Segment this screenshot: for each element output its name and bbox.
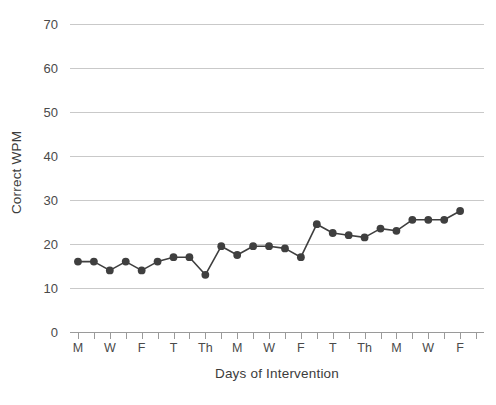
data-point xyxy=(424,216,432,224)
x-axis-tick-label: Th xyxy=(198,341,213,355)
data-point xyxy=(249,242,257,250)
data-point xyxy=(186,253,194,261)
x-axis-tick xyxy=(94,332,95,339)
line-chart: Correct WPM 010203040506070 MWFTThMWFTTh… xyxy=(0,0,496,405)
x-axis-tick xyxy=(333,332,334,339)
x-axis-tick xyxy=(110,332,111,339)
data-point xyxy=(201,271,209,279)
x-axis-tick-label: Th xyxy=(357,341,372,355)
y-axis-tick-label: 20 xyxy=(44,237,58,252)
x-axis-tick-labels: MWFTThMWFTThMWF xyxy=(70,341,484,361)
data-point xyxy=(297,253,305,261)
x-axis-tick-label: M xyxy=(232,341,242,355)
x-axis-tick xyxy=(221,332,222,339)
y-axis-tick-label: 60 xyxy=(44,61,58,76)
data-point xyxy=(74,258,82,266)
data-point xyxy=(377,225,385,233)
data-point xyxy=(408,216,416,224)
x-axis-title: Days of Intervention xyxy=(70,366,484,381)
x-axis-tick-label: F xyxy=(138,341,146,355)
x-axis-tick-label: F xyxy=(297,341,305,355)
data-point xyxy=(154,258,162,266)
x-axis-tick xyxy=(269,332,270,339)
y-axis-title: Correct WPM xyxy=(0,0,34,345)
x-axis-tick xyxy=(174,332,175,339)
x-axis-tick xyxy=(381,332,382,339)
x-axis-tick xyxy=(349,332,350,339)
x-axis-tick-label: F xyxy=(456,341,464,355)
y-axis-title-label: Correct WPM xyxy=(10,131,25,214)
y-axis-tick-labels: 010203040506070 xyxy=(30,0,66,345)
x-axis-tick xyxy=(428,332,429,339)
data-point xyxy=(345,231,353,239)
data-point xyxy=(393,227,401,235)
x-axis-tick xyxy=(253,332,254,339)
data-point xyxy=(138,267,146,275)
x-axis-tick xyxy=(317,332,318,339)
x-axis-tick xyxy=(412,332,413,339)
x-axis-tick xyxy=(189,332,190,339)
x-axis-tick xyxy=(301,332,302,339)
x-axis-tick-label: M xyxy=(73,341,83,355)
data-point xyxy=(329,229,337,237)
x-axis-tick-label: M xyxy=(391,341,401,355)
y-axis-tick-label: 70 xyxy=(44,17,58,32)
x-axis-tick xyxy=(126,332,127,339)
data-point xyxy=(456,207,464,215)
x-axis-tick xyxy=(460,332,461,339)
x-axis-tick-label: W xyxy=(104,341,116,355)
data-point xyxy=(265,242,273,250)
x-axis-tick-label: T xyxy=(329,341,337,355)
x-axis-tick xyxy=(285,332,286,339)
x-axis-tick-label: W xyxy=(422,341,434,355)
x-axis-tick xyxy=(444,332,445,339)
data-point xyxy=(281,245,289,253)
data-point xyxy=(233,251,241,259)
data-point xyxy=(440,216,448,224)
y-axis-tick-label: 30 xyxy=(44,193,58,208)
plot-area xyxy=(70,0,484,345)
x-axis-tick xyxy=(205,332,206,339)
y-axis-tick-label: 50 xyxy=(44,105,58,120)
x-axis-tick xyxy=(396,332,397,339)
x-axis-tick-label: W xyxy=(263,341,275,355)
data-point xyxy=(361,234,369,242)
x-axis-tick xyxy=(476,332,477,339)
data-point xyxy=(217,242,225,250)
data-point xyxy=(90,258,98,266)
x-axis-tick xyxy=(365,332,366,339)
x-axis-tick xyxy=(158,332,159,339)
data-point xyxy=(170,253,178,261)
x-axis-tick xyxy=(78,332,79,339)
x-axis-tick-label: T xyxy=(170,341,178,355)
data-point xyxy=(106,267,114,275)
data-series xyxy=(70,0,484,345)
x-axis-tick xyxy=(237,332,238,339)
data-point xyxy=(122,258,130,266)
data-point xyxy=(313,220,321,228)
y-axis-tick-label: 40 xyxy=(44,149,58,164)
y-axis-tick-label: 10 xyxy=(44,281,58,296)
y-axis-tick-label: 0 xyxy=(51,325,58,340)
x-axis-tick xyxy=(142,332,143,339)
